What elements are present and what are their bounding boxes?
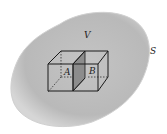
cell-b-label: B — [89, 67, 96, 76]
cell-a-label: A — [64, 68, 71, 77]
surface-label: S — [150, 47, 156, 56]
diagram-canvas — [0, 0, 167, 134]
volume-label: V — [84, 31, 91, 40]
